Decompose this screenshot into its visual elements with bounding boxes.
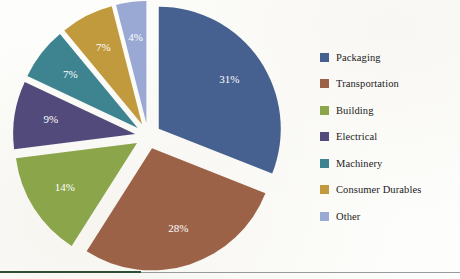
pie-chart-page: 31%28%14%9%7%7%4% PackagingTransportatio… <box>0 0 460 279</box>
legend-swatch-icon <box>320 106 329 115</box>
pie-chart-figure: 31%28%14%9%7%7%4% <box>0 0 300 272</box>
legend-item-label: Transportation <box>336 78 399 89</box>
legend-swatch-icon <box>320 159 329 168</box>
pie-slice-value-label: 4% <box>128 31 143 43</box>
legend-item-label: Building <box>336 105 374 116</box>
footer-rule-gray <box>141 272 460 273</box>
legend-item[interactable]: Building <box>320 97 456 124</box>
pie-chart-svg: 31%28%14%9%7%7%4% <box>0 0 300 272</box>
legend-item-label: Electrical <box>336 131 377 142</box>
pie-slice-value-label: 9% <box>43 113 58 125</box>
pie-slice-value-label: 14% <box>55 181 75 193</box>
legend-item[interactable]: Electrical <box>320 124 456 151</box>
footer-rule-green <box>0 271 141 273</box>
legend-swatch-icon <box>320 79 329 88</box>
legend-item-label: Consumer Durables <box>336 184 421 195</box>
legend-item-label: Packaging <box>336 52 381 63</box>
pie-slice-value-label: 7% <box>63 68 78 80</box>
legend-item[interactable]: Transportation <box>320 71 456 98</box>
pie-slice-value-label: 31% <box>219 73 239 85</box>
legend-item-label: Machinery <box>336 158 382 169</box>
legend-item[interactable]: Other <box>320 203 456 230</box>
legend-swatch-icon <box>320 185 329 194</box>
legend-swatch-icon <box>320 212 329 221</box>
legend-item[interactable]: Consumer Durables <box>320 177 456 204</box>
legend-item[interactable]: Machinery <box>320 150 456 177</box>
pie-slice-value-label: 7% <box>96 41 111 53</box>
legend-swatch-icon <box>320 132 329 141</box>
chart-legend: PackagingTransportationBuildingElectrica… <box>320 44 456 230</box>
legend-item-label: Other <box>336 211 360 222</box>
legend-item[interactable]: Packaging <box>320 44 456 71</box>
pie-slice[interactable] <box>159 7 281 174</box>
pie-slice-group <box>13 1 281 270</box>
legend-swatch-icon <box>320 53 329 62</box>
pie-slice-value-label: 28% <box>168 222 188 234</box>
